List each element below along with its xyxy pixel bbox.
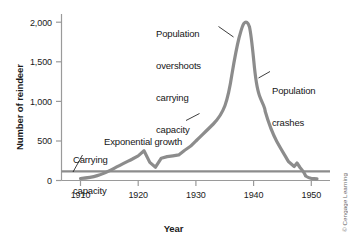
y-tick-label-2000: 2,000 (20, 18, 52, 28)
annotation-carrying-capacity-line-2: capacity (73, 186, 108, 197)
annotation-carrying-capacity: Carrying capacity (73, 134, 108, 219)
annotation-population-overshoots-line-1: Population (156, 29, 201, 40)
annotation-carrying-capacity-line-1: Carrying (73, 155, 108, 166)
annotation-population-crashes-line-2: crashes (272, 118, 315, 129)
annotation-population-overshoots-line-3: carrying (156, 93, 201, 104)
annotation-population-crashes-line-1: Population (272, 86, 315, 97)
x-tick-label-1950: 1950 (291, 190, 331, 200)
y-tick-label-0: 0 (20, 176, 52, 186)
population-overshoots-leader (219, 27, 234, 38)
x-tick-label-1920: 1920 (118, 190, 158, 200)
x-axis-ticks (81, 181, 312, 187)
annotation-population-overshoots-line-4: capacity (156, 125, 201, 136)
x-axis-title: Year (0, 223, 347, 234)
y-axis-title: Number of reindeer (14, 64, 25, 150)
x-tick-label-1940: 1940 (234, 190, 274, 200)
x-tick-label-1930: 1930 (176, 190, 216, 200)
annotation-population-overshoots-line-2: overshoots (156, 61, 201, 72)
annotation-population-overshoots: Population overshoots carrying capacity (156, 8, 201, 156)
annotation-population-crashes: Population crashes (272, 65, 315, 150)
population-crashes-leader (259, 72, 271, 79)
y-axis-ticks (56, 22, 62, 180)
copyright-credit: © Cengage Learning (341, 173, 348, 232)
